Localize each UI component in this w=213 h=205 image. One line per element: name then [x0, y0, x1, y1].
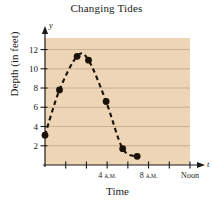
y-tick-label: 12 [29, 45, 38, 55]
x-axis-variable: t [207, 159, 210, 169]
data-point [74, 53, 81, 60]
plot-canvas: 24681012 4 A.M.8 A.M.Noon y t [0, 0, 213, 205]
chart-figure: Changing Tides Depth (in feet) Time 2468… [0, 0, 213, 205]
y-tick-label: 10 [29, 64, 39, 74]
x-axis-arrowhead [197, 162, 205, 168]
y-tick-label: 6 [34, 102, 39, 112]
x-axis-tick-labels: 4 A.M.8 A.M.Noon [98, 171, 199, 180]
data-point [134, 153, 141, 160]
data-point [56, 87, 63, 94]
y-axis-tick-labels: 24681012 [29, 45, 39, 151]
y-tick-label: 2 [34, 141, 39, 151]
x-tick-label: 8 A.M. [140, 171, 158, 180]
y-tick-label: 4 [34, 122, 39, 132]
x-tick-label: 4 A.M. [98, 171, 116, 180]
data-point [42, 132, 49, 139]
y-tick-label: 8 [34, 83, 39, 93]
y-axis-arrowhead [42, 26, 48, 34]
x-tick-label: Noon [181, 171, 199, 180]
data-point [119, 145, 126, 152]
y-axis-variable: y [48, 20, 53, 30]
data-point [103, 98, 110, 105]
data-point [85, 57, 92, 64]
